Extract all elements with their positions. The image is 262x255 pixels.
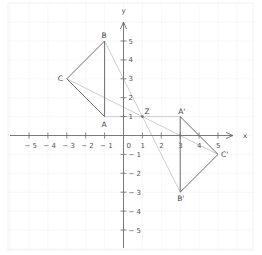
y-tick-label: − 5 <box>129 227 142 235</box>
origin-label: 0 <box>127 142 131 150</box>
x-tick-label: 1 <box>140 142 144 150</box>
point-label-b-prime: B' <box>177 194 184 203</box>
point-label-c: C <box>58 74 63 83</box>
y-axis-label: y <box>122 7 126 15</box>
x-tick-label: − 1 <box>100 142 113 150</box>
x-tick-label: 2 <box>159 142 163 150</box>
x-tick-label: − 2 <box>81 142 94 150</box>
center-point-z <box>141 115 144 118</box>
y-tick-label: 1 <box>129 113 133 121</box>
point-label-c-prime: C' <box>221 150 228 159</box>
point-labels: ABCA'B'C'Z <box>58 31 229 203</box>
point-label-a: A <box>102 120 108 129</box>
point-label-b: B <box>102 31 107 40</box>
x-tick-label: − 4 <box>43 142 56 150</box>
y-tick-label: − 4 <box>129 208 142 216</box>
point-label-z: Z <box>144 107 149 116</box>
point-label-a-prime: A' <box>178 107 185 116</box>
x-tick-label: − 3 <box>62 142 75 150</box>
y-tick-label: − 1 <box>129 151 142 159</box>
y-tick-label: 4 <box>129 56 134 64</box>
x-tick-label: 5 <box>216 142 220 150</box>
y-tick-label: 2 <box>129 94 133 102</box>
y-tick-label: 3 <box>129 75 133 83</box>
x-axis-label: x <box>243 132 247 140</box>
y-tick-label: 5 <box>129 38 133 46</box>
coordinate-plane: xy0− 5− 4− 3− 2− 11234554321− 1− 2− 3− 4… <box>0 0 262 255</box>
y-tick-label: − 2 <box>129 170 142 178</box>
y-tick-label: − 3 <box>129 189 142 197</box>
x-tick-label: − 5 <box>25 142 38 150</box>
axes: xy0− 5− 4− 3− 2− 11234554321− 1− 2− 3− 4… <box>10 7 247 248</box>
x-tick-label: 4 <box>197 142 202 150</box>
